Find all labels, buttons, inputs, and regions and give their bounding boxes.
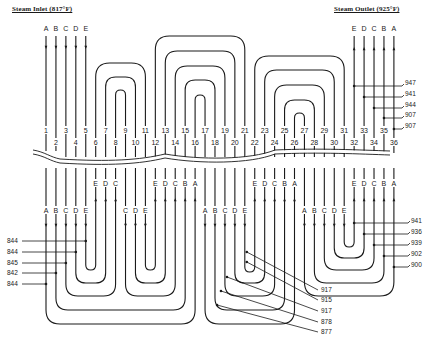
flow-arrow-icon bbox=[383, 47, 386, 50]
lower-letter-B: B bbox=[213, 207, 218, 214]
tube-number-28: 28 bbox=[310, 139, 318, 146]
leader-line bbox=[354, 84, 404, 86]
leader-line bbox=[247, 262, 318, 300]
flow-arrows bbox=[45, 46, 396, 307]
flow-arrow-icon bbox=[293, 198, 296, 201]
tube-number-7: 7 bbox=[104, 127, 108, 134]
temp-lower-right-902: 902 bbox=[411, 250, 422, 257]
lower-letter-E: E bbox=[83, 207, 88, 214]
flow-arrow-icon bbox=[74, 46, 77, 49]
tube-number-9: 9 bbox=[124, 127, 128, 134]
flow-arrow-icon bbox=[204, 224, 207, 227]
lower-letter-A: A bbox=[203, 207, 208, 214]
tube-number-27: 27 bbox=[301, 127, 309, 134]
inlet-letter-E: E bbox=[83, 25, 88, 32]
lower-loop bbox=[304, 168, 393, 296]
flow-arrow-icon bbox=[253, 198, 256, 201]
flow-arrow-icon bbox=[373, 47, 376, 50]
flow-arrow-icon bbox=[224, 224, 227, 227]
flow-arrow-icon bbox=[45, 46, 48, 49]
break-letter-E: E bbox=[252, 180, 257, 187]
inlet-letter-C: C bbox=[63, 25, 68, 32]
lower-loop bbox=[225, 168, 275, 296]
flow-arrow-icon bbox=[273, 198, 276, 201]
inlet-letter-D: D bbox=[73, 25, 78, 32]
flow-arrow-icon bbox=[84, 224, 87, 227]
lower-letter-E: E bbox=[342, 207, 347, 214]
flow-arrow-icon bbox=[184, 198, 187, 201]
leader-line bbox=[354, 221, 410, 223]
tube-number-21: 21 bbox=[241, 127, 249, 134]
tube-number-31: 31 bbox=[340, 127, 348, 134]
break-letter-C: C bbox=[113, 180, 118, 187]
lower-loop bbox=[135, 168, 165, 283]
upper-loop bbox=[275, 85, 325, 157]
upper-loop bbox=[116, 90, 126, 157]
flow-arrow-icon bbox=[65, 46, 68, 49]
flow-arrow-icon bbox=[144, 224, 147, 227]
temp-outlet-947: 947 bbox=[405, 79, 416, 86]
temp-bottom-917: 917 bbox=[321, 307, 332, 314]
leader-line bbox=[394, 127, 404, 129]
leader-line bbox=[394, 265, 410, 267]
outlet-letter-C: C bbox=[371, 25, 376, 32]
tube-number-29: 29 bbox=[320, 127, 328, 134]
tube-number-1: 1 bbox=[44, 127, 48, 134]
leader-line bbox=[374, 243, 410, 245]
tube-number-24: 24 bbox=[271, 139, 279, 146]
inlet-letter-A: A bbox=[44, 25, 49, 32]
lower-letter-D: D bbox=[73, 207, 78, 214]
tube-number-4: 4 bbox=[74, 139, 78, 146]
lower-letter-C: C bbox=[222, 207, 227, 214]
flow-arrow-icon bbox=[393, 198, 396, 201]
lower-letter-A: A bbox=[44, 207, 49, 214]
temp-outlet-944: 944 bbox=[405, 101, 416, 108]
lower-letter-A: A bbox=[302, 207, 307, 214]
flow-arrow-icon bbox=[174, 198, 177, 201]
lower-loop bbox=[334, 168, 364, 258]
temp-bottom-878: 878 bbox=[321, 318, 332, 325]
break-gap bbox=[33, 151, 390, 162]
tube-number-30: 30 bbox=[330, 139, 338, 146]
break-letter-D: D bbox=[362, 180, 367, 187]
flow-arrow-icon bbox=[114, 198, 117, 201]
temp-outlet-941: 941 bbox=[405, 90, 416, 97]
tube-number-14: 14 bbox=[171, 139, 179, 146]
flow-arrow-icon bbox=[353, 198, 356, 201]
lower-letter-E: E bbox=[242, 207, 247, 214]
break-letter-E: E bbox=[153, 180, 158, 187]
flow-arrow-icon bbox=[214, 224, 217, 227]
upper-loop bbox=[285, 100, 315, 157]
flow-arrow-icon bbox=[84, 46, 87, 49]
temp-bottom-917: 917 bbox=[321, 286, 332, 293]
temp-bottom-877: 877 bbox=[321, 328, 332, 335]
break-letter-C: C bbox=[371, 180, 376, 187]
break-line bbox=[33, 149, 390, 164]
tube-number-2: 2 bbox=[54, 139, 58, 146]
tube-number-25: 25 bbox=[281, 127, 289, 134]
flow-arrow-icon bbox=[65, 224, 68, 227]
flow-arrow-icon bbox=[313, 224, 316, 227]
flow-arrow-icon bbox=[303, 224, 306, 227]
flow-arrow-icon bbox=[104, 198, 107, 201]
leader-line bbox=[374, 106, 404, 108]
flow-arrow-icon bbox=[55, 46, 58, 49]
tube-number-23: 23 bbox=[261, 127, 269, 134]
flow-arrow-icon bbox=[283, 198, 286, 201]
lower-letter-C: C bbox=[123, 207, 128, 214]
lower-loop bbox=[76, 168, 106, 283]
flow-arrow-icon bbox=[233, 224, 236, 227]
temp-outlet-907: 907 bbox=[405, 122, 416, 129]
tube-number-11: 11 bbox=[142, 127, 149, 134]
lower-letter-C: C bbox=[63, 207, 68, 214]
tube-number-22: 22 bbox=[251, 139, 259, 146]
temp-lower-left-844: 844 bbox=[7, 280, 18, 287]
temp-outlet-907: 907 bbox=[405, 111, 416, 118]
tube-number-3: 3 bbox=[64, 127, 68, 134]
leader-line bbox=[247, 252, 318, 290]
tube-number-36: 36 bbox=[390, 139, 398, 146]
superheater-tube-diagram: 1234567891011121314151617181920212223242… bbox=[0, 0, 436, 346]
flow-arrow-icon bbox=[353, 47, 356, 50]
temp-lower-left-842: 842 bbox=[7, 269, 18, 276]
flow-arrow-icon bbox=[194, 198, 197, 201]
